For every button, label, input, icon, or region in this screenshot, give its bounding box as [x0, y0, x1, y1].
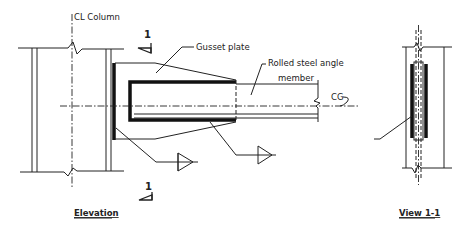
svg-text:1: 1 — [145, 181, 152, 192]
weld-symbol-gusset-to-column — [116, 128, 198, 171]
rolled-angle-label-2: member — [278, 73, 314, 83]
weld-symbol-angle-to-gusset — [210, 122, 276, 164]
view-1-1-title: View 1-1 — [399, 208, 440, 218]
rolled-angle-leader — [251, 64, 266, 95]
column-elevation — [18, 14, 124, 188]
rolled-angle-label-1: Rolled steel angle — [268, 58, 344, 68]
cl-column-label: CL Column — [74, 12, 120, 22]
angle-member — [130, 80, 320, 122]
svg-text:1: 1 — [144, 29, 151, 40]
gusset-plate-label: Gusset plate — [196, 42, 250, 52]
gusset-leader — [156, 47, 194, 73]
view-1-1 — [374, 25, 452, 185]
gusset-connection-drawing: CL Column Gusset plate Rolled steel angl… — [0, 0, 470, 233]
section-mark-bottom: 1 — [139, 181, 152, 200]
elevation-title: Elevation — [74, 208, 119, 218]
gusset-plate — [114, 63, 236, 140]
cg-label: CG — [331, 92, 344, 102]
section-mark-top: 1 — [138, 29, 151, 53]
